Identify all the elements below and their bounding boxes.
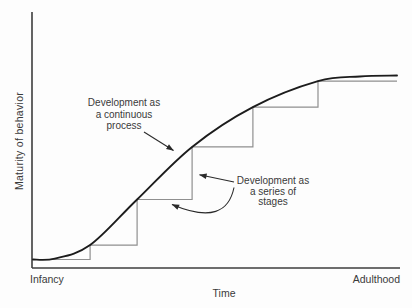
- x-axis-title: Time: [213, 287, 236, 299]
- x-axis-left-label: Infancy: [30, 273, 64, 285]
- annotation-continuous-process: Development as a continuous process: [88, 97, 160, 132]
- annotation-series-of-stages: Development as a series of stages: [237, 176, 309, 208]
- y-axis-label: Maturity of behavior: [13, 92, 25, 190]
- chart-canvas: [0, 0, 412, 308]
- arrow-to-continuous-curve: [144, 132, 174, 151]
- arrow-to-stage-riser: [200, 175, 235, 182]
- x-axis-right-label: Adulthood: [353, 273, 400, 285]
- developmental-stages-figure: Maturity of behavior Development as a co…: [0, 0, 412, 308]
- curved-arrow-to-stage-step: [172, 188, 234, 213]
